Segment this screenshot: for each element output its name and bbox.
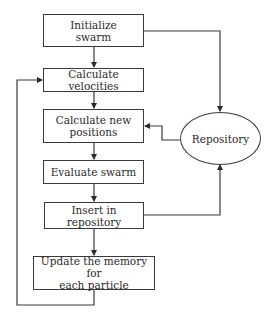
node-label: Insert in repository: [48, 204, 140, 228]
node-label: Calculate new: [56, 114, 132, 126]
node-update-memory: Update the memory foreach particle: [33, 256, 155, 290]
node-repository: Repository: [180, 112, 261, 165]
node-label: Initialize: [70, 19, 117, 31]
node-label: Update the memory for: [37, 255, 151, 279]
node-label: Repository: [192, 133, 249, 145]
node-label: swarm: [70, 31, 117, 43]
node-evaluate-swarm: Evaluate swarm: [43, 160, 144, 184]
node-calculate-velocities: Calculate velocities: [43, 68, 144, 92]
node-initialize-swarm: Initializeswarm: [43, 14, 144, 47]
node-label: each particle: [37, 279, 151, 291]
node-calculate-new-positions: Calculate newpositions: [43, 109, 144, 143]
node-insert-in-repository: Insert in repository: [44, 202, 144, 229]
node-label: positions: [56, 126, 132, 138]
node-label: Calculate velocities: [47, 68, 140, 92]
node-label: Evaluate swarm: [51, 166, 137, 178]
